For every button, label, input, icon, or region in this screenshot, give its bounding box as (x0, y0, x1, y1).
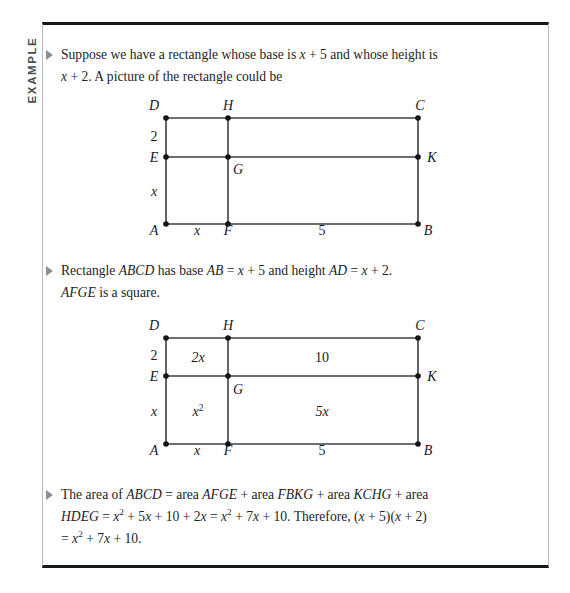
label-D: D (148, 98, 159, 113)
figure-1-svg: D H C E G K A F B 2 x x 5 (110, 96, 460, 236)
vertex-dot-H (225, 335, 231, 341)
p3-seg-p: + 10. (110, 531, 141, 546)
example-tab-label: EXAMPLE (26, 37, 38, 104)
figure-2-side-labels: 2 x x 5 (150, 348, 326, 456)
side-label-left-top: 2 (151, 129, 158, 144)
label-D: D (148, 318, 159, 333)
vertex-dot-D (163, 115, 169, 121)
p1-seg-a: Suppose we have a rectangle whose base i… (61, 47, 300, 62)
figure-2-area-labels: 2x 10 x2 5x (191, 350, 329, 419)
p2-seg-e: = (347, 263, 361, 278)
triangle-right-icon (46, 266, 53, 276)
p3-seg-m: + 2) (401, 509, 427, 524)
p3-ref-kchg: KCHG (354, 487, 392, 502)
p3-seg-l: + 5)( (365, 509, 395, 524)
side-label-left-top: 2 (151, 348, 158, 363)
vertex-dot-B (415, 441, 421, 447)
paragraph-2-text: Rectangle ABCD has base AB = x + 5 and h… (61, 260, 392, 304)
figure-2-svg: D H C E G K A F B 2 x x 5 2x 10 x2 5x (110, 316, 460, 456)
label-A: A (149, 443, 159, 456)
label-K: K (426, 150, 437, 165)
triangle-right-icon (46, 490, 53, 500)
vertex-dot-G (225, 373, 231, 379)
figure-rectangle-with-areas: D H C E G K A F B 2 x x 5 2x 10 x2 5x (110, 316, 460, 456)
area-label-top-left: 2x (191, 350, 205, 365)
vertex-dot-H (225, 115, 231, 121)
p3-seg-g: + 5 (124, 509, 145, 524)
area-label-top-right: 10 (315, 350, 329, 365)
p2-ref-afge: AFGE (61, 285, 96, 300)
p2-seg-g: is a square. (96, 285, 160, 300)
vertex-dot-A (163, 221, 169, 227)
label-E: E (149, 150, 159, 165)
vertex-dot-A (163, 441, 169, 447)
area-label-bottom-left: x2 (192, 403, 204, 419)
side-label-bottom-left: x (193, 223, 201, 236)
vertex-dot-B (415, 221, 421, 227)
label-H: H (222, 98, 234, 113)
p2-seg-f: + 2. (368, 263, 393, 278)
p3-ref-afge: AFGE (202, 487, 237, 502)
p3-seg-i: = (207, 509, 221, 524)
side-label-bottom-right: 5 (319, 223, 326, 236)
figure-1-side-labels: 2 x x 5 (150, 129, 326, 236)
vertex-dot-D (163, 335, 169, 341)
p3-seg-b: = area (162, 487, 203, 502)
area-bottom-left-exponent: 2 (199, 403, 204, 413)
p2-seg-c: = (223, 263, 237, 278)
p3-seg-a: The area of (61, 487, 126, 502)
p3-seg-f: = (99, 509, 113, 524)
triangle-right-icon (46, 50, 53, 60)
vertex-dot-G (225, 154, 231, 160)
p3-ref-fbkg: FBKG (278, 487, 314, 502)
paragraph-3: The area of ABCD = area AFGE + area FBKG… (46, 484, 526, 550)
vertex-dot-C (415, 115, 421, 121)
p3-seg-h: + 10 + 2 (151, 509, 200, 524)
label-G: G (233, 162, 243, 177)
p2-ref-ad: AD (329, 263, 347, 278)
area-label-bottom-right: 5x (315, 404, 329, 419)
p3-seg-o: + 7 (83, 531, 104, 546)
label-B: B (424, 443, 433, 456)
label-A: A (149, 223, 159, 236)
p1-seg-c: A picture of the rectangle could be (92, 69, 283, 84)
p3-seg-n: = (61, 531, 72, 546)
p2-seg-d: + 5 and height (244, 263, 329, 278)
label-C: C (415, 98, 425, 113)
p3-seg-c: + area (237, 487, 278, 502)
label-E: E (149, 369, 159, 384)
p3-seg-k: + 10. Therefore, ( (259, 509, 359, 524)
figure-rectangle-unlabeled: D H C E G K A F B 2 x x 5 (110, 96, 460, 236)
side-label-bottom-left: x (193, 443, 201, 456)
side-label-bottom-right: 5 (319, 443, 326, 456)
p1-seg-b: and whose height is (327, 47, 438, 62)
vertex-dot-K (415, 154, 421, 160)
p1-seg-plus2: + 2. (67, 69, 92, 84)
label-G: G (233, 382, 243, 397)
p3-ref-abcd: ABCD (126, 487, 162, 502)
paragraph-2: Rectangle ABCD has base AB = x + 5 and h… (46, 260, 516, 304)
vertex-dot-E (163, 154, 169, 160)
p2-ref-abcd: ABCD (119, 263, 155, 278)
vertex-dot-C (415, 335, 421, 341)
paragraph-3-text: The area of ABCD = area AFGE + area FBKG… (61, 484, 428, 550)
label-K: K (426, 369, 437, 384)
label-F: F (223, 443, 233, 456)
vertex-dot-E (163, 373, 169, 379)
figure-1-dots (163, 115, 421, 227)
side-label-left-bottom: x (150, 404, 158, 419)
side-label-left-bottom: x (150, 184, 158, 199)
p3-ref-hdeg: HDEG (61, 509, 99, 524)
label-F: F (223, 223, 233, 236)
vertex-dot-K (415, 373, 421, 379)
label-C: C (415, 318, 425, 333)
p3-seg-e: + area (391, 487, 428, 502)
p2-seg-a: Rectangle (61, 263, 119, 278)
figure-1-lines (166, 118, 418, 224)
paragraph-1-text: Suppose we have a rectangle whose base i… (61, 44, 438, 88)
paragraph-1: Suppose we have a rectangle whose base i… (46, 44, 516, 88)
label-H: H (222, 318, 234, 333)
p1-seg-plus5: + 5 (306, 47, 327, 62)
p3-seg-j: + 7 (232, 509, 253, 524)
label-B: B (424, 223, 433, 236)
